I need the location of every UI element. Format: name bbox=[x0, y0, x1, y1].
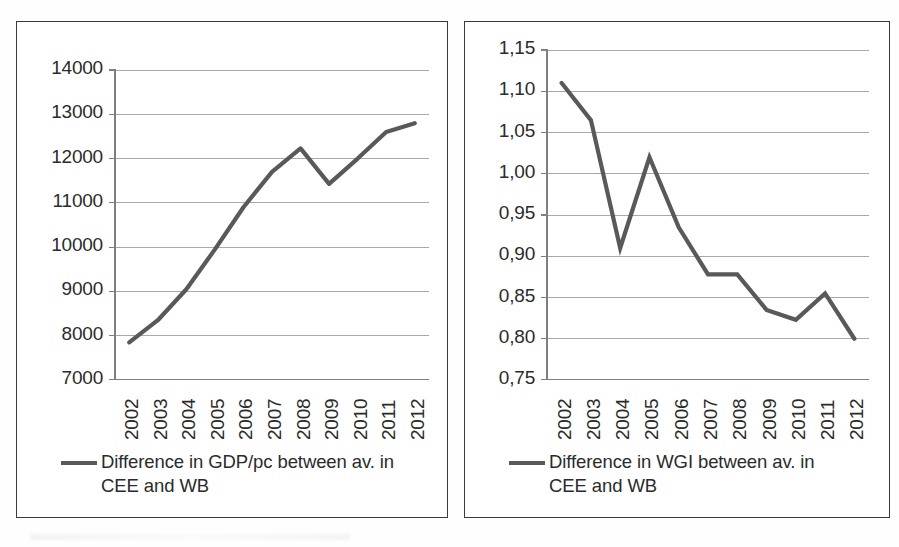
wgi-chart-panel: 1,151,101,051,000,950,900,850,800,75 200… bbox=[464, 21, 890, 518]
y-axis-tick-label: 1,05 bbox=[499, 120, 535, 142]
x-axis-tick-label: 2004 bbox=[612, 399, 634, 440]
x-axis-tick-label: 2006 bbox=[671, 399, 693, 440]
gdp-chart-panel: 1400013000120001100010000900080007000 20… bbox=[16, 21, 448, 518]
wgi-legend-row: Difference in WGI between av. in CEE and… bbox=[465, 450, 889, 497]
y-axis-tick-label: 0,90 bbox=[499, 243, 535, 265]
y-axis-tick-label: 8000 bbox=[62, 323, 103, 345]
y-axis-tick-label: 9000 bbox=[62, 278, 103, 300]
y-axis-tick-label: 10000 bbox=[51, 234, 103, 256]
x-axis-tick-label: 2009 bbox=[759, 399, 781, 440]
x-axis-tick-label: 2004 bbox=[178, 399, 200, 440]
x-axis-tick-label: 2010 bbox=[788, 399, 810, 440]
y-axis-tick-label: 12000 bbox=[51, 146, 103, 168]
y-axis-tick-label: 0,75 bbox=[499, 367, 535, 389]
y-axis-tick-label: 0,80 bbox=[499, 326, 535, 348]
y-axis-tick-label: 7000 bbox=[62, 367, 103, 389]
y-axis-tick-label: 1,10 bbox=[499, 78, 535, 100]
scan-artifact bbox=[30, 534, 350, 540]
y-axis-tick-label: 13000 bbox=[51, 101, 103, 123]
y-axis-tick-label: 0,85 bbox=[499, 285, 535, 307]
x-axis-tick-label: 2005 bbox=[641, 399, 663, 440]
x-axis-tick-label: 2007 bbox=[700, 399, 722, 440]
x-axis-tick-label: 2003 bbox=[583, 399, 605, 440]
x-axis-tick-label: 2002 bbox=[554, 399, 576, 440]
gdp-legend-line-icon bbox=[61, 461, 97, 465]
x-axis-tick-label: 2011 bbox=[378, 400, 400, 440]
x-axis-tick-label: 2009 bbox=[321, 399, 343, 440]
wgi-legend-label: Difference in WGI between av. in CEE and… bbox=[549, 450, 849, 497]
x-axis-tick-label: 2002 bbox=[121, 399, 143, 440]
wgi-legend: Difference in WGI between av. in CEE and… bbox=[465, 450, 889, 497]
x-axis-tick-label: 2003 bbox=[150, 399, 172, 440]
x-axis-tick-label: 2008 bbox=[729, 399, 751, 440]
gdp-legend-row: Difference in GDP/pc between av. in CEE … bbox=[17, 450, 447, 497]
gdp-legend-label: Difference in GDP/pc between av. in CEE … bbox=[101, 450, 401, 497]
y-axis-tick-label: 1,15 bbox=[499, 37, 535, 59]
figure-page: 1400013000120001100010000900080007000 20… bbox=[0, 0, 899, 547]
y-axis-tick-label: 14000 bbox=[51, 57, 103, 79]
x-axis-tick-label: 2012 bbox=[407, 399, 429, 440]
x-axis-tick-label: 2010 bbox=[350, 399, 372, 440]
y-axis-tick-label: 1,00 bbox=[499, 161, 535, 183]
y-axis-tick-label: 11000 bbox=[53, 190, 103, 212]
x-axis-tick-label: 2008 bbox=[293, 399, 315, 440]
gdp-legend: Difference in GDP/pc between av. in CEE … bbox=[17, 450, 447, 497]
wgi-legend-line-icon bbox=[509, 461, 545, 465]
x-axis-tick-label: 2007 bbox=[264, 399, 286, 440]
x-axis-tick-label: 2005 bbox=[207, 399, 229, 440]
y-axis-tick-label: 0,95 bbox=[499, 202, 535, 224]
x-axis-tick-label: 2006 bbox=[235, 399, 257, 440]
x-axis-tick-label: 2011 bbox=[817, 400, 839, 440]
x-axis-tick-label: 2012 bbox=[846, 399, 868, 440]
